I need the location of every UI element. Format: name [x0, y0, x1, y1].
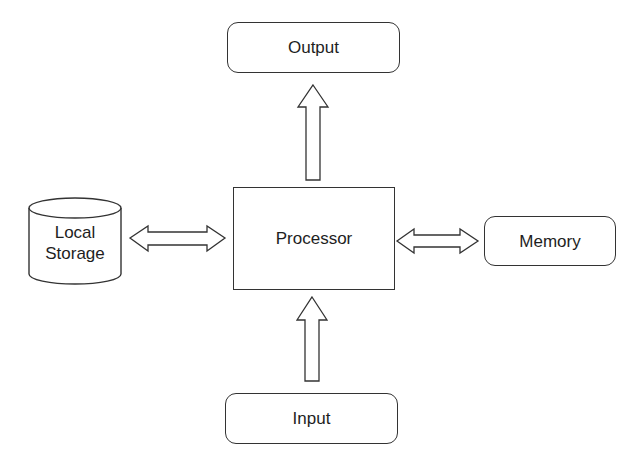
- input-node: Input: [225, 393, 398, 444]
- arrow-input-to-processor: [297, 297, 327, 381]
- output-label: Output: [288, 37, 339, 58]
- input-label: Input: [293, 408, 331, 429]
- double-arrow-processor-memory: [397, 229, 478, 253]
- double-arrow-storage-processor: [130, 226, 225, 251]
- output-node: Output: [227, 22, 400, 73]
- memory-node: Memory: [484, 216, 616, 266]
- processor-node: Processor: [233, 187, 395, 290]
- memory-label: Memory: [519, 231, 580, 252]
- local-storage-label: Local Storage: [29, 222, 121, 264]
- arrow-processor-to-output: [298, 85, 328, 180]
- diagram-canvas: Output Processor Memory Input Local Stor…: [0, 0, 639, 468]
- processor-label: Processor: [276, 228, 353, 249]
